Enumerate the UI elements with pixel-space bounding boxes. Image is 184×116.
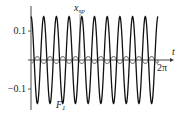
y-tick-label-neg: −0.1 xyxy=(8,83,26,94)
x-axis-arrow-icon xyxy=(170,58,174,62)
x-tick-label-2pi: 2π xyxy=(157,62,167,73)
x-sp-label-sub: sp xyxy=(78,7,85,15)
x-axis-label: t xyxy=(172,46,175,57)
f1-label-sub: 1 xyxy=(62,104,66,112)
chart: 0.1 −0.1 2π t xsp F1 xyxy=(0,0,184,116)
y-tick-label-pos: 0.1 xyxy=(14,25,27,36)
x-sp-label: xsp xyxy=(73,2,85,15)
